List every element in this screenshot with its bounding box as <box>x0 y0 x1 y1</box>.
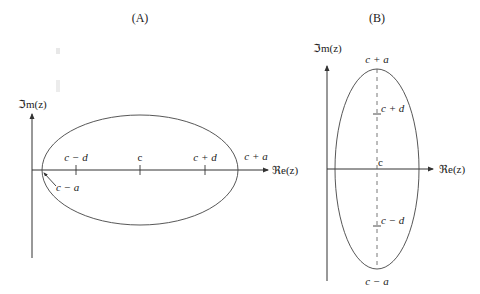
panel-a: (A) ℑm(z) ℜe(z) c − d c c + d c + a c − … <box>18 11 298 258</box>
label-c-minus-a: c − a <box>365 275 389 287</box>
label-c-plus-a: c + a <box>365 53 389 65</box>
label-c-minus-a: c − a <box>56 181 80 193</box>
panel-a-title: (A) <box>132 11 149 25</box>
label-c-minus-d: c − d <box>64 151 88 163</box>
label-c-plus-d: c + d <box>193 151 217 163</box>
label-c-minus-d: c − d <box>381 214 405 226</box>
label-c-plus-d: c + d <box>381 102 405 114</box>
artifact <box>56 80 60 92</box>
panel-b: (B) ℑm(z) ℜe(z) c + a c + d c c − d c − … <box>313 11 465 287</box>
real-axis-label: ℜe(z) <box>439 163 465 176</box>
label-c: c <box>378 156 383 168</box>
artifact <box>56 48 60 54</box>
real-axis-label: ℜe(z) <box>272 164 298 177</box>
ellipse-diagram: (A) ℑm(z) ℜe(z) c − d c c + d c + a c − … <box>0 0 480 294</box>
imaginary-axis-label: ℑm(z) <box>18 98 47 111</box>
imaginary-axis-label: ℑm(z) <box>313 42 342 55</box>
panel-b-title: (B) <box>369 11 385 25</box>
label-c: c <box>138 151 143 163</box>
pointer-arrow <box>44 173 56 186</box>
label-c-plus-a: c + a <box>244 150 268 162</box>
